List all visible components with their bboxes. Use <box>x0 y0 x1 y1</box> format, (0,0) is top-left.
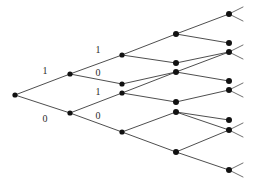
tree-edge <box>176 90 229 102</box>
edge-bit-label: 1 <box>96 45 101 55</box>
tree-node[interactable] <box>119 81 124 86</box>
tree-node[interactable] <box>119 129 124 134</box>
tree-edge <box>122 132 176 152</box>
edge-bit-label: 1 <box>96 87 101 97</box>
tree-edge <box>15 95 70 113</box>
tree-node[interactable] <box>119 90 124 95</box>
edge-bit-label: 1 <box>43 66 48 76</box>
tree-edge <box>176 14 229 34</box>
tree-node[interactable] <box>226 78 232 84</box>
tree-edge <box>176 152 229 170</box>
tree-edge <box>122 93 176 102</box>
tree-node[interactable] <box>173 149 179 155</box>
tree-edge <box>176 34 229 43</box>
tree-graphic <box>0 0 256 185</box>
binary-trellis-diagram: 101010 <box>0 0 256 185</box>
tree-edge <box>176 72 229 81</box>
tree-node[interactable] <box>173 60 179 66</box>
tree-node[interactable] <box>173 99 179 105</box>
tree-node[interactable] <box>119 52 124 57</box>
edge-bit-label: 0 <box>43 114 48 124</box>
tree-node[interactable] <box>226 87 232 93</box>
tree-node[interactable] <box>12 92 17 97</box>
tree-node[interactable] <box>226 127 232 133</box>
tree-node[interactable] <box>173 109 179 115</box>
tree-node[interactable] <box>173 31 179 37</box>
tree-edge <box>122 112 176 132</box>
tree-node[interactable] <box>226 49 232 55</box>
tree-edge <box>176 112 229 130</box>
tree-node[interactable] <box>67 110 72 115</box>
tree-edge <box>176 52 229 72</box>
tree-edge <box>122 55 176 63</box>
edge-bit-label: 0 <box>96 68 101 78</box>
tree-node[interactable] <box>226 117 232 123</box>
tree-node[interactable] <box>226 167 232 173</box>
tree-node[interactable] <box>67 71 72 76</box>
tree-edge <box>176 130 229 152</box>
tree-node[interactable] <box>226 40 232 46</box>
tree-edge <box>176 52 229 63</box>
nodes-group <box>12 11 232 173</box>
tree-edge <box>122 34 176 55</box>
tree-edge <box>15 74 70 95</box>
edge-bit-label: 0 <box>96 111 101 121</box>
tree-edge <box>176 112 229 120</box>
tree-node[interactable] <box>173 69 179 75</box>
tree-node[interactable] <box>226 11 232 17</box>
